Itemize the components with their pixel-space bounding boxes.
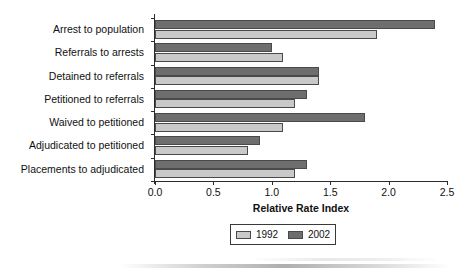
bar-1992	[155, 30, 377, 39]
bar-group	[155, 18, 447, 41]
x-axis-line	[154, 181, 447, 182]
bar-2002	[155, 67, 319, 76]
bar-group	[155, 41, 447, 64]
legend-label: 1992	[256, 229, 278, 240]
category-label: Placements to adjudicated	[21, 158, 144, 181]
category-axis-labels: Arrest to populationReferrals to arrests…	[0, 18, 150, 181]
bar-2002	[155, 113, 365, 122]
bar-2002	[155, 20, 435, 29]
bar-group	[155, 134, 447, 157]
bar-group	[155, 111, 447, 134]
x-axis-tick	[155, 181, 156, 185]
x-axis-tick	[389, 181, 390, 185]
category-label: Petitioned to referrals	[44, 88, 144, 111]
category-label: Waived to petitioned	[49, 111, 144, 134]
legend-label: 2002	[308, 229, 330, 240]
category-label: Referrals to arrests	[55, 41, 144, 64]
bar-1992	[155, 146, 248, 155]
x-axis-tick-label: 2.0	[369, 186, 409, 198]
chart-legend: 19922002	[230, 224, 336, 245]
relative-rate-index-bar-chart: Arrest to populationReferrals to arrests…	[0, 0, 472, 272]
scan-artifact-smudge	[120, 264, 450, 268]
legend-swatch-icon	[236, 231, 251, 239]
x-axis-title: Relative Rate Index	[155, 202, 447, 214]
bar-2002	[155, 136, 260, 145]
bar-1992	[155, 123, 283, 132]
x-axis-tick-label: 1.5	[310, 186, 350, 198]
x-axis-tick-label: 2.5	[427, 186, 467, 198]
x-axis-tick	[213, 181, 214, 185]
legend-entry: 1992	[236, 229, 278, 240]
x-axis-tick	[272, 181, 273, 185]
bar-1992	[155, 53, 283, 62]
bar-2002	[155, 43, 272, 52]
bar-1992	[155, 99, 295, 108]
x-axis-tick	[447, 181, 448, 185]
category-label: Arrest to population	[53, 18, 144, 41]
bar-1992	[155, 76, 319, 85]
bar-2002	[155, 160, 307, 169]
x-axis-tick	[330, 181, 331, 185]
scan-artifact-smudge-secondary	[250, 258, 440, 261]
bar-group	[155, 65, 447, 88]
category-label: Adjudicated to petitioned	[29, 134, 144, 157]
legend-entry: 2002	[288, 229, 330, 240]
legend-swatch-icon	[288, 231, 303, 239]
bar-2002	[155, 90, 307, 99]
bar-group	[155, 158, 447, 181]
category-label: Detained to referrals	[49, 65, 144, 88]
plot-area	[155, 18, 447, 181]
x-axis-tick-label: 0.0	[135, 186, 175, 198]
x-axis-tick-label: 0.5	[193, 186, 233, 198]
x-axis-tick-label: 1.0	[252, 186, 292, 198]
bar-1992	[155, 169, 295, 178]
bar-group	[155, 88, 447, 111]
